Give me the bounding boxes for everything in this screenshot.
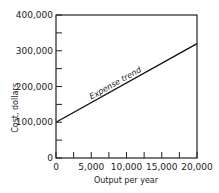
y-tick-label: 200,000 — [16, 82, 53, 92]
chart: 0100,000200,000300,000400,000 05,00010,0… — [0, 0, 219, 193]
x-tick-label: 0 — [53, 162, 59, 172]
y-tick-label: 100,000 — [16, 117, 53, 127]
y-tick-label: 400,000 — [16, 10, 53, 20]
x-tick-label: 15,000 — [146, 162, 178, 172]
x-tick-label: 10,000 — [111, 162, 143, 172]
x-axis-ticks: 05,00010,00015,00020,000 — [53, 152, 213, 172]
x-tick-label: 5,000 — [78, 162, 104, 172]
expense-trend-annotation: Expense trend — [88, 65, 144, 102]
series-expense-trend — [56, 44, 197, 123]
y-axis-ticks: 0100,000200,000300,000400,000 — [16, 10, 62, 163]
y-axis-label: Cost, dollars — [11, 83, 20, 133]
plot-frame — [56, 15, 197, 158]
x-axis-label: Output per year — [94, 176, 159, 185]
x-tick-label: 20,000 — [181, 162, 213, 172]
y-tick-label: 300,000 — [16, 46, 53, 56]
